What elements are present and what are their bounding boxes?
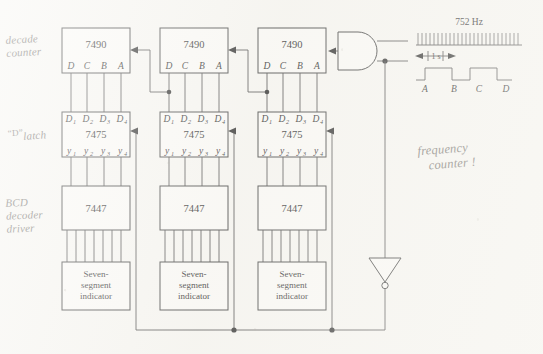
display-col3-line3: indicator: [276, 291, 308, 301]
chip-7490-col2-pin-D: D: [165, 61, 173, 71]
chip-7475-col2-out-y3-sub: 3: [204, 150, 208, 157]
chip-7490-col1-pin-C: C: [84, 61, 91, 71]
and-gate: [338, 32, 377, 70]
diagram-canvas: decade counter “D”latch BCD decoder driv…: [0, 0, 543, 354]
chip-7475-col3-out-y1: y: [262, 146, 268, 156]
latch-enable-arrow-col3: [326, 128, 334, 135]
chip-7475-col3-out-y3: y: [296, 146, 302, 156]
chip-7490-col2-pin-B: B: [199, 61, 205, 71]
chip-7475-col1-in-D1: D: [65, 114, 73, 124]
inverter-bubble: [382, 282, 388, 288]
chip-7475-col2-in-D3: D: [197, 114, 205, 124]
chip-7475-col2-out-y1-sub: 1: [171, 150, 174, 157]
chip-7490-col1-label: 7490: [86, 39, 107, 50]
chip-7475-col1-label: 7475: [86, 129, 107, 140]
latch-enable-arrow-col1: [130, 128, 138, 135]
carry-arrow-col1: [130, 47, 138, 54]
chip-7475-col1-out-y4-sub: 4: [124, 150, 127, 157]
display-col1-line1: Seven-: [84, 269, 109, 279]
annotation-decade-counter: decade counter: [5, 32, 41, 60]
waveform-frequency-label: 752 Hz: [455, 17, 483, 27]
chip-7475-col2-label: 7475: [184, 129, 205, 140]
junction-col2-carry: [167, 90, 172, 95]
chip-7490-col1-pin-B: B: [101, 61, 107, 71]
junction-reset-bus-col2: [231, 327, 236, 332]
gate-waveform: [416, 68, 512, 80]
chip-7475-col2-in-D4-sub: 4: [222, 118, 225, 125]
chip-7490-col3-pin-C: C: [280, 61, 287, 71]
chip-7475-col2-out-y3: y: [198, 146, 204, 156]
display-col2-line2: segment: [179, 280, 209, 290]
chip-7490-col2-pin-C: C: [182, 61, 189, 71]
chip-7475-col1-out-y2: y: [83, 146, 89, 156]
chip-7490-col3-pin-B: B: [297, 61, 303, 71]
chip-7475-col3-in-D1: D: [261, 114, 269, 124]
chip-7475-col2-in-D2-sub: 2: [188, 118, 191, 125]
pulse-train: [418, 33, 518, 45]
chip-7475-col1-in-D4: D: [116, 114, 124, 124]
chip-7475-col1-out-y1: y: [66, 146, 72, 156]
chip-7475-col2-in-D4: D: [214, 114, 222, 124]
chip-7475-col1-in-D1-sub: 1: [73, 118, 76, 125]
chip-7490-col2-label: 7490: [184, 39, 205, 50]
chip-7475-col2-in-D3-sub: 3: [204, 118, 208, 125]
waveform-phase-A: A: [421, 84, 428, 94]
chip-7490-col2-pin-A: A: [215, 61, 222, 71]
chip-7475-col1-out-y1-sub: 1: [73, 150, 76, 157]
chip-7475-col3-in-D4: D: [312, 114, 320, 124]
chip-7475-col1-out-y2-sub: 2: [90, 150, 93, 157]
chip-7475-col3-out-y2-sub: 2: [286, 150, 289, 157]
chip-7447-col1-label: 7447: [86, 203, 107, 214]
chip-7475-col3-in-D3-sub: 3: [302, 118, 306, 125]
carry-arrow-col2: [228, 47, 236, 54]
junction-reset-bus-col3: [329, 327, 334, 332]
display-col2-line1: Seven-: [182, 269, 207, 279]
inverter-triangle: [369, 258, 401, 282]
chip-7475-col3-in-D1-sub: 1: [269, 118, 272, 125]
chip-7475-col2-out-y2-sub: 2: [188, 150, 191, 157]
latch-enable-arrow-col2: [228, 128, 236, 135]
chip-7475-col2-in-D2: D: [180, 114, 188, 124]
annotation-frequency-counter: frequency counter !: [417, 140, 476, 174]
chip-7475-col1-out-y3: y: [100, 146, 106, 156]
chip-7475-col3-out-y4: y: [313, 146, 319, 156]
chip-7475-col1-out-y3-sub: 3: [106, 150, 110, 157]
chip-7490-col1-pin-D: D: [67, 61, 75, 71]
chip-7475-col3-in-D2-sub: 2: [286, 118, 289, 125]
chip-7475-col3-out-y2: y: [279, 146, 285, 156]
display-col1-line2: segment: [81, 280, 111, 290]
display-col3-line2: segment: [277, 280, 307, 290]
display-col2-line3: indicator: [178, 291, 210, 301]
chip-7475-col1-in-D4-sub: 4: [124, 118, 127, 125]
chip-7490-col1-pin-A: A: [117, 61, 124, 71]
junction-col3-carry: [265, 90, 270, 95]
chip-7475-col2-out-y1: y: [164, 146, 170, 156]
chip-7475-col2-out-y4-sub: 4: [222, 150, 225, 157]
chip-7475-col3-out-y1-sub: 1: [269, 150, 272, 157]
chip-7475-col1-in-D3-sub: 3: [106, 118, 110, 125]
chip-7475-col3-in-D2: D: [278, 114, 286, 124]
chip-7475-col1-in-D2: D: [82, 114, 90, 124]
chip-7447-col2-label: 7447: [184, 203, 205, 214]
circuit-schematic: 7490 D C B A 7475 D 1 D 2 D 3 D 4 y 1 y …: [0, 0, 543, 354]
annotation-d-latch-quote: “D”: [8, 127, 24, 138]
chip-7475-col2-in-D1: D: [163, 114, 171, 124]
chip-7475-col3-label: 7475: [282, 129, 303, 140]
annotation-d-latch: “D”latch: [8, 126, 47, 144]
chip-7475-col1-in-D2-sub: 2: [90, 118, 93, 125]
chip-7475-col1-in-D3: D: [99, 114, 107, 124]
annotation-d-latch-word: latch: [23, 128, 47, 142]
display-col3-line1: Seven-: [280, 269, 305, 279]
carry-arrow-col3: [328, 48, 336, 55]
chip-7475-col1-out-y4: y: [117, 146, 123, 156]
chip-7490-col3-pin-D: D: [263, 61, 271, 71]
chip-7490-col3-pin-A: A: [313, 61, 320, 71]
waveform-phase-B: B: [451, 84, 457, 94]
chip-7475-col3-in-D4-sub: 4: [320, 118, 323, 125]
chip-7475-col3-out-y4-sub: 4: [320, 150, 323, 157]
chip-7475-col2-out-y4: y: [215, 146, 221, 156]
chip-7447-col3-label: 7447: [282, 203, 303, 214]
chip-7490-col3-label: 7490: [282, 39, 303, 50]
display-col1-line3: indicator: [80, 291, 112, 301]
chip-7475-col3-in-D3: D: [295, 114, 303, 124]
